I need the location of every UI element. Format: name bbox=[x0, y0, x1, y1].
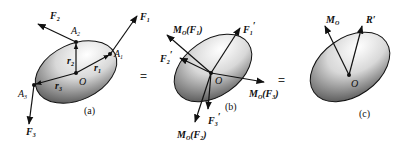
equals-sign-1: = bbox=[140, 69, 147, 83]
label-O-c: O bbox=[351, 78, 358, 89]
label-O-b: O bbox=[215, 75, 222, 86]
point-O-a bbox=[74, 71, 78, 75]
label-F1: F1 bbox=[139, 11, 150, 23]
equals-sign-2: = bbox=[278, 73, 285, 87]
point-A2 bbox=[74, 40, 78, 44]
label-F2: F2 bbox=[49, 10, 60, 22]
panel-b: MO(F1) F1′ F2′ MO(F3) F3′ MO(F2) O (b) bbox=[159, 20, 279, 141]
panel-a: F1 F2 F3 A1 A2 A3 r1 r2 r3 O (a) bbox=[17, 10, 150, 138]
force-system-diagram: F1 F2 F3 A1 A2 A3 r1 r2 r3 O (a) = MO(F1… bbox=[0, 0, 413, 148]
label-O-a: O bbox=[79, 76, 86, 87]
label-A3: A3 bbox=[17, 88, 27, 100]
label-A1: A1 bbox=[113, 48, 123, 60]
label-MO: MO bbox=[325, 14, 340, 26]
panel-c: MO R′ O (c) bbox=[297, 14, 402, 120]
label-MO-F3: MO(F3) bbox=[248, 88, 279, 100]
label-F1-prime: F1′ bbox=[242, 20, 256, 36]
force-F3 bbox=[29, 85, 34, 124]
caption-b: (b) bbox=[225, 101, 237, 113]
label-A2: A2 bbox=[70, 25, 80, 37]
label-R-prime: R′ bbox=[365, 14, 376, 25]
figure-canvas: F1 F2 F3 A1 A2 A3 r1 r2 r3 O (a) = MO(F1… bbox=[0, 0, 413, 148]
point-O-b bbox=[209, 71, 213, 75]
label-MO-F2: MO(F2) bbox=[176, 129, 207, 141]
point-A3 bbox=[32, 83, 36, 87]
label-F3-prime: F3′ bbox=[207, 111, 221, 127]
label-F3: F3 bbox=[25, 126, 36, 138]
caption-c: (c) bbox=[359, 108, 370, 120]
caption-a: (a) bbox=[84, 105, 95, 117]
label-MO-F1: MO(F1) bbox=[172, 24, 203, 36]
point-A1 bbox=[108, 52, 112, 56]
point-O-c bbox=[347, 73, 351, 77]
rigid-body-c bbox=[297, 18, 402, 116]
label-F2-prime: F2′ bbox=[159, 49, 173, 65]
